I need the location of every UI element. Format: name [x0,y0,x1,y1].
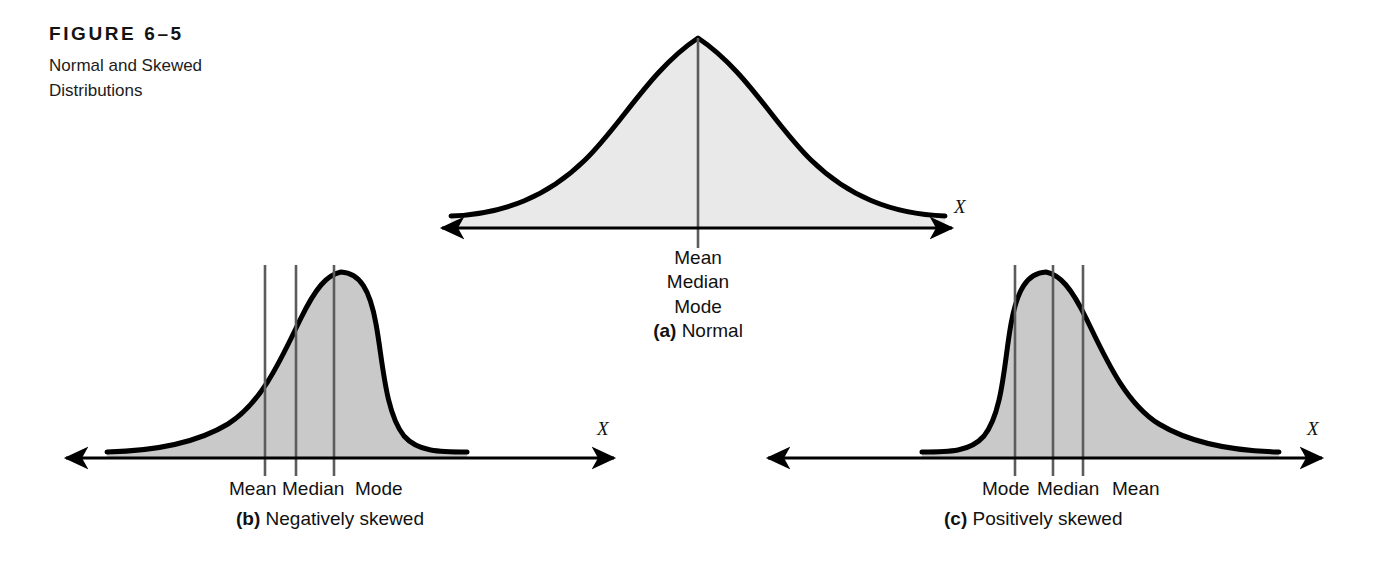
positive-skew-mean-label: Mean [1112,478,1160,500]
panel-b-tag: (b) [236,508,266,529]
panel-a-normal [442,38,952,248]
panel-a-tag: (a) [653,320,682,341]
negative-skew-mean-label: Mean [229,478,277,500]
panel-c-caption: (c) Positively skewed [944,508,1122,530]
negative-skew-mode-label: Mode [355,478,403,500]
normal-x-axis-label: X [954,196,966,218]
panel-c-tag: (c) [944,508,973,529]
normal-mean-label: Mean [618,246,778,270]
panel-c-positive-skew [768,265,1322,476]
negative-skew-median-label: Median [282,478,344,500]
panel-c-caption-text: Positively skewed [973,508,1123,529]
normal-statistic-labels: Mean Median Mode (a) Normal [618,246,778,343]
negative-skew-x-axis-label: X [597,418,609,440]
normal-mode-label: Mode [618,295,778,319]
panel-b-caption: (b) Negatively skewed [236,508,424,530]
panel-a-caption: (a) Normal [618,319,778,343]
panel-b-caption-text: Negatively skewed [266,508,424,529]
positive-skew-mode-label: Mode [982,478,1030,500]
negative-skew-curve-fill [107,272,467,458]
positive-skew-median-label: Median [1037,478,1099,500]
positive-skew-x-axis-label: X [1307,418,1319,440]
panel-a-caption-text: Normal [682,320,743,341]
positive-skew-curve-fill [922,272,1279,458]
normal-median-label: Median [618,270,778,294]
figure-container: FIGURE 6–5 Normal and Skewed Distributio… [0,0,1383,562]
panel-b-negative-skew [66,265,614,476]
